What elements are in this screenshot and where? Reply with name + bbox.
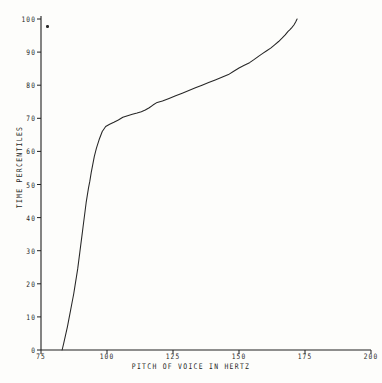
y-tick-label: 30 — [2, 246, 36, 255]
y-tick-label: 80 — [2, 80, 36, 89]
x-tick-label: 100 — [94, 351, 120, 360]
plot-canvas — [0, 0, 382, 383]
y-tick-label: 10 — [2, 312, 36, 321]
y-tick-label: 20 — [2, 279, 36, 288]
x-tick-label: 150 — [226, 351, 252, 360]
y-tick-label: 100 — [2, 14, 36, 23]
axis-lines — [41, 16, 371, 350]
x-axis-ticks — [41, 350, 371, 354]
y-axis-title: TIME PERCENTILES — [15, 107, 25, 227]
x-tick-label: 125 — [160, 351, 186, 360]
x-tick-label: 75 — [28, 351, 54, 360]
x-tick-label: 200 — [358, 351, 382, 360]
x-tick-label: 175 — [292, 351, 318, 360]
y-tick-label: 90 — [2, 47, 36, 56]
x-axis-title: PITCH OF VOICE IN HERTZ — [0, 362, 382, 372]
ink-speck-icon — [46, 25, 49, 28]
y-axis-ticks — [37, 19, 41, 350]
data-curve — [62, 19, 297, 350]
chart-figure: 010203040506070809010075100125150175200 … — [0, 0, 382, 383]
